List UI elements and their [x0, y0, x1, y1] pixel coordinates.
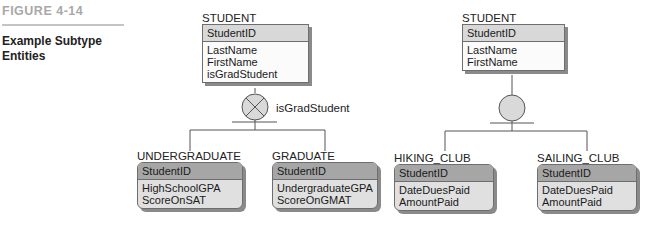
entity-attribute: ScoreOnSAT	[142, 194, 238, 206]
entity-attribute: HighSchoolGPA	[142, 182, 238, 194]
entity-title-student-left: STUDENT	[202, 12, 256, 24]
entity-attribute: isGradStudent	[207, 68, 304, 80]
entity-attribute: FirstName	[207, 56, 304, 68]
entity-attribute: DateDuesPaid	[399, 184, 489, 196]
entity-title-sailing-club: SAILING_CLUB	[537, 152, 619, 164]
entity-title-student-right: STUDENT	[462, 12, 516, 24]
inclusive-subtype-icon	[499, 95, 525, 121]
entity-identifier: StudentID	[538, 165, 636, 182]
entity-identifier: StudentID	[463, 25, 564, 42]
entity-attribute: AmountPaid	[542, 196, 632, 208]
entity-title-hiking-club: HIKING_CLUB	[394, 152, 471, 164]
entity-graduate: StudentID UndergraduateGPA ScoreOnGMAT	[272, 162, 378, 209]
entity-title-undergraduate: UNDERGRADUATE	[137, 150, 241, 162]
entity-identifier: StudentID	[203, 25, 308, 42]
entity-attribute: LastName	[207, 44, 304, 56]
entity-hiking-club: StudentID DateDuesPaid AmountPaid	[394, 164, 494, 211]
entity-sailing-club: StudentID DateDuesPaid AmountPaid	[537, 164, 637, 211]
entity-identifier: StudentID	[395, 165, 493, 182]
entity-title-graduate: GRADUATE	[272, 150, 335, 162]
entity-identifier: StudentID	[273, 163, 377, 180]
entity-attribute: DateDuesPaid	[542, 184, 632, 196]
entity-attribute: UndergraduateGPA	[277, 182, 373, 194]
exclusive-subtype-icon	[242, 94, 268, 120]
discriminator-label: isGradStudent	[276, 102, 350, 114]
entity-attribute: ScoreOnGMAT	[277, 194, 373, 206]
entity-attribute: AmountPaid	[399, 196, 489, 208]
entity-identifier: StudentID	[138, 163, 242, 180]
entity-attribute: FirstName	[467, 56, 560, 68]
entity-student-right: StudentID LastName FirstName	[462, 24, 565, 71]
entity-student-left: StudentID LastName FirstName isGradStude…	[202, 24, 309, 83]
entity-undergraduate: StudentID HighSchoolGPA ScoreOnSAT	[137, 162, 243, 209]
entity-attribute: LastName	[467, 44, 560, 56]
